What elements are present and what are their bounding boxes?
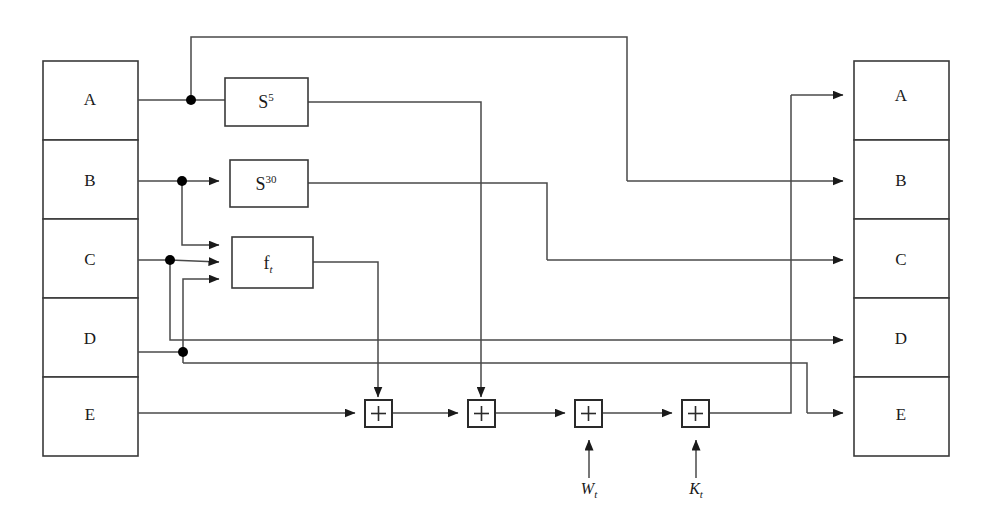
adder-3: [575, 400, 602, 427]
output-label-c: C: [895, 250, 906, 269]
output-label-d: D: [895, 329, 907, 348]
wire-c-into-ft: [170, 260, 219, 262]
ft-block: ft: [232, 237, 313, 288]
output-label-e: E: [896, 405, 906, 424]
wire-layer: A B C D E A B C D E: [0, 0, 990, 532]
wire-d-into-ft: [183, 279, 219, 352]
junction-dot-b: [177, 176, 187, 186]
wire-ft-to-add1: [313, 262, 378, 388]
input-label-c: C: [84, 250, 95, 269]
wt-label: Wt: [581, 480, 598, 500]
sha1-round-diagram: A B C D E A B C D E: [0, 0, 990, 532]
shift5-block: S5: [225, 78, 308, 126]
wire-shift30-down: [308, 183, 547, 260]
junction-dot-d: [178, 347, 188, 357]
output-register-stack: A B C D E: [854, 61, 949, 456]
input-label-d: D: [84, 329, 96, 348]
input-register-stack: A B C D E: [43, 61, 138, 456]
output-label-b: B: [895, 171, 906, 190]
output-label-a: A: [895, 86, 908, 105]
junction-dot-a: [186, 95, 196, 105]
input-label-a: A: [84, 90, 97, 109]
wire-shift5-to-add2: [308, 102, 481, 388]
junction-dot-c: [165, 255, 175, 265]
adder-2: [468, 400, 495, 427]
wire-b-into-ft: [182, 181, 219, 245]
input-label-b: B: [84, 171, 95, 190]
wire-add4-up: [709, 95, 791, 413]
kt-label: Kt: [688, 480, 704, 500]
adder-1: [365, 400, 392, 427]
adder-4: [682, 400, 709, 427]
input-label-e: E: [85, 405, 95, 424]
shift30-block: S30: [230, 160, 308, 207]
